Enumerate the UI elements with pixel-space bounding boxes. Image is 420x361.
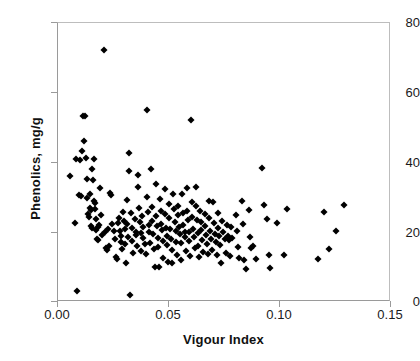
data-point-marker <box>134 171 141 178</box>
data-point-marker <box>227 253 234 260</box>
data-point-marker <box>341 202 348 209</box>
data-point-marker <box>168 246 175 253</box>
data-point-marker <box>332 228 339 235</box>
data-point-marker <box>92 205 99 212</box>
data-point-marker <box>89 166 96 173</box>
data-point-marker <box>126 167 133 174</box>
data-point-marker <box>155 243 162 250</box>
plot-area <box>57 22 390 301</box>
data-point-marker <box>259 164 266 171</box>
data-point-marker <box>152 181 159 188</box>
data-point-marker <box>122 260 129 267</box>
data-point-marker <box>192 183 199 190</box>
data-point-marker <box>148 166 155 173</box>
data-point-marker <box>100 46 107 53</box>
data-point-marker <box>90 177 97 184</box>
data-point-marker <box>183 184 190 191</box>
data-point-marker <box>130 250 137 257</box>
data-point-marker <box>252 256 259 263</box>
data-point-marker <box>169 259 176 266</box>
data-point-marker <box>120 208 127 215</box>
y-axis-title: Phenolics, mg/g <box>28 69 43 269</box>
data-point-marker <box>273 219 280 226</box>
data-point-marker <box>155 264 162 271</box>
data-point-marker <box>184 207 191 214</box>
data-point-marker <box>218 259 225 266</box>
data-point-marker <box>187 252 194 259</box>
data-point-marker <box>283 206 290 213</box>
data-point-marker <box>250 242 257 249</box>
data-point-marker <box>90 155 97 162</box>
data-point-marker <box>108 191 115 198</box>
data-point-marker <box>81 137 88 144</box>
data-point-marker <box>265 252 272 259</box>
data-point-marker <box>125 150 132 157</box>
data-point-marker <box>217 241 224 248</box>
data-point-marker <box>123 197 130 204</box>
data-point-marker <box>234 243 241 250</box>
data-point-marker <box>240 221 247 228</box>
x-axis-title: Vigour Index <box>57 332 390 347</box>
x-tick-label: 0.15 <box>360 308 420 321</box>
data-point-marker <box>178 256 185 263</box>
data-point-marker <box>157 196 164 203</box>
data-point-marker <box>135 183 142 190</box>
data-point-marker <box>127 292 134 299</box>
data-point-marker <box>144 193 151 200</box>
data-point-marker <box>245 207 252 214</box>
data-points-layer <box>58 23 389 300</box>
data-point-marker <box>232 211 239 218</box>
data-point-marker <box>263 215 270 222</box>
data-point-marker <box>281 251 288 258</box>
data-point-marker <box>213 251 220 258</box>
data-point-marker <box>242 266 249 273</box>
data-point-marker <box>325 245 332 252</box>
data-point-marker <box>321 209 328 216</box>
data-point-marker <box>239 197 246 204</box>
data-point-marker <box>266 265 273 272</box>
data-point-marker <box>85 214 92 221</box>
data-point-marker <box>314 256 321 263</box>
x-tick-label: 0.10 <box>249 308 309 321</box>
data-point-marker <box>210 198 217 205</box>
data-point-marker <box>246 234 253 241</box>
data-point-marker <box>233 227 240 234</box>
data-point-marker <box>73 288 80 295</box>
data-point-marker <box>241 257 248 264</box>
data-point-marker <box>170 191 177 198</box>
data-point-marker <box>71 219 78 226</box>
data-point-marker <box>214 209 221 216</box>
x-tick-label: 0.00 <box>27 308 87 321</box>
scatter-plot-figure: 80 60 40 20 0 0.00 0.05 0.10 0.15 Vigour… <box>0 0 420 361</box>
data-point-marker <box>135 205 142 212</box>
x-tick-label: 0.05 <box>138 308 198 321</box>
data-point-marker <box>98 211 105 218</box>
data-point-marker <box>82 155 89 162</box>
data-point-marker <box>143 107 150 114</box>
data-point-marker <box>261 202 268 209</box>
data-point-marker <box>97 185 104 192</box>
data-point-marker <box>177 240 184 247</box>
data-point-marker <box>188 116 195 123</box>
data-point-marker <box>161 186 168 193</box>
data-point-marker <box>179 190 186 197</box>
data-point-marker <box>67 172 74 179</box>
